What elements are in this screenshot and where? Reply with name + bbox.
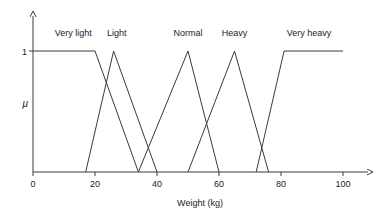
series-labels: Very lightLightNormalHeavyVery heavy [55,28,332,38]
series-label-very-heavy: Very heavy [287,28,332,38]
x-axis-tick-labels: 020406080100 [30,179,350,189]
y-axis-title: μ [22,98,29,109]
chart-plot-area: Very lightLightNormalHeavyVery heavy 020… [0,0,390,219]
axes-group [33,16,368,172]
series-label-heavy: Heavy [222,28,248,38]
membership-curves [33,51,343,172]
membership-curve-very-heavy [256,51,343,172]
series-label-normal: Normal [173,28,202,38]
x-tick-label-0: 0 [30,179,35,189]
x-tick-label-60: 60 [214,179,224,189]
membership-curve-heavy [188,51,269,172]
series-label-very-light: Very light [55,28,93,38]
x-tick-label-100: 100 [335,179,350,189]
series-label-light: Light [107,28,127,38]
x-axis-ticks [33,172,343,176]
fuzzy-membership-chart: Very lightLightNormalHeavyVery heavy 020… [0,0,390,219]
membership-curve-very-light [33,51,138,172]
x-tick-label-40: 40 [152,179,162,189]
y-axis-value-label: 1 [22,47,27,57]
x-tick-label-20: 20 [90,179,100,189]
x-axis-title: Weight (kg) [177,198,223,208]
x-tick-label-80: 80 [276,179,286,189]
